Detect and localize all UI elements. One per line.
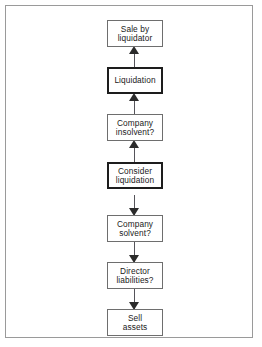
arrowhead-up-into-sale-by-liquidator [129,46,139,54]
figure-frame: Sale by liquidator Liquidation Company i… [5,5,253,338]
node-label-line2: insolvent? [116,128,154,137]
node-label-line2: assets [123,323,148,332]
node-label-line2: liquidation [116,176,154,185]
node-sell-assets[interactable]: Sell assets [107,309,163,336]
node-company-solvent[interactable]: Company solvent? [107,215,163,242]
flowchart: Sale by liquidator Liquidation Company i… [6,6,252,337]
node-company-insolvent[interactable]: Company insolvent? [107,114,163,141]
arrowhead-up-into-liquidation [129,93,139,101]
node-label-line2: liquidator [118,34,153,43]
node-sale-by-liquidator[interactable]: Sale by liquidator [107,20,163,47]
node-label-line2: solvent? [119,229,151,238]
node-label-line1: Liquidation [114,76,155,85]
node-director-liabilities[interactable]: Director liabilities? [107,262,163,289]
arrowhead-up-into-company-insolvent [129,140,139,148]
node-consider-liquidation[interactable]: Consider liquidation [107,162,163,189]
node-label-line2: liabilities? [116,276,153,285]
node-liquidation[interactable]: Liquidation [107,67,163,94]
